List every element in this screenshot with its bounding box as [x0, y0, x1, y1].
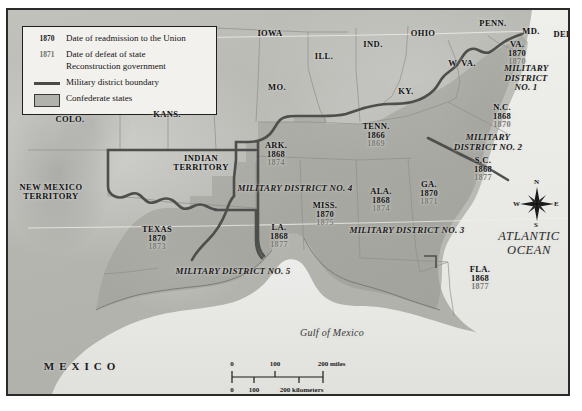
- confederate-state-label: GA.18701871: [420, 180, 438, 207]
- scale-miles-tick-0: 0: [230, 360, 234, 368]
- confederate-state-label: TEXAS18701873: [142, 225, 172, 252]
- union-state-label: ILL.: [315, 52, 333, 61]
- confederate-state-label: TENN.18661869: [362, 122, 389, 149]
- union-state-label: DEL.: [553, 30, 570, 39]
- reconstruction-defeat-year: 1874: [370, 206, 391, 215]
- union-state-label: COLO.: [55, 115, 84, 124]
- legend-year-defeat: 1871: [40, 50, 55, 59]
- union-state-label: PENN.: [479, 19, 506, 28]
- union-state-label: MO.: [268, 83, 286, 92]
- compass-north-label: N: [534, 178, 539, 186]
- map-frame: 1870 Date of readmission to the Union 18…: [6, 8, 570, 396]
- confederate-state-label: ALA.18681874: [370, 187, 391, 214]
- reconstruction-defeat-year: 1871: [420, 199, 438, 208]
- scale-bar-graphic: [230, 369, 362, 387]
- legend-key-defeat: 1871: [30, 49, 64, 59]
- reconstruction-defeat-year: 1869: [362, 141, 389, 150]
- reconstruction-defeat-year: 1875: [313, 220, 337, 229]
- reconstruction-defeat-year: 1877: [474, 175, 492, 184]
- legend-label-district-boundary: Military district boundary: [64, 77, 159, 88]
- union-state-label: IND.: [363, 40, 382, 49]
- scale-miles-tick-100: 100: [270, 360, 281, 368]
- union-state-label: KANS.: [153, 110, 181, 119]
- water-body-label: Gulf of Mexico: [300, 328, 364, 339]
- reconstruction-map-figure: 1870 Date of readmission to the Union 18…: [0, 0, 582, 411]
- confederate-state-label: N.C.18681870: [493, 103, 511, 130]
- legend-label-readmission: Date of readmission to the Union: [64, 33, 186, 44]
- map-legend: 1870 Date of readmission to the Union 18…: [22, 26, 217, 115]
- compass-west-label: W: [513, 200, 520, 208]
- confederate-state-label: ARK.18681874: [265, 141, 287, 168]
- reconstruction-defeat-year: 1873: [142, 244, 172, 253]
- legend-year-readmission: 1870: [40, 34, 55, 43]
- union-state-label: KY.: [398, 87, 413, 96]
- military-district-label: MILITARY DISTRICT NO. 1: [504, 64, 548, 93]
- reconstruction-defeat-year: 1874: [265, 160, 287, 169]
- legend-row-confederate: Confederate states: [30, 93, 209, 107]
- scale-miles-tick-200: 200: [318, 360, 329, 368]
- map-scale-bar: 0 100 200 miles 0 100 200 kilometers: [230, 360, 362, 394]
- compass-south-label: S: [534, 221, 538, 229]
- confederate-state-label: LA.18681877: [270, 223, 288, 250]
- reconstruction-defeat-year: 1877: [270, 242, 288, 251]
- scale-km-tick-200: 200: [280, 386, 291, 394]
- scale-miles-unit: miles: [330, 360, 346, 368]
- union-state-label: IOWA: [257, 29, 282, 38]
- military-district-label: MILITARY DISTRICT NO. 2: [448, 133, 528, 152]
- legend-key-readmission: 1870: [30, 33, 64, 43]
- legend-label-defeat: Date of defeat of state Reconstruction g…: [64, 49, 166, 72]
- legend-key-district-boundary: [30, 77, 64, 85]
- union-state-label: W. VA.: [448, 59, 476, 68]
- district-boundary-swatch-icon: [34, 82, 60, 85]
- confederate-states-swatch-icon: [34, 94, 60, 107]
- scale-km-tick-100: 100: [249, 386, 260, 394]
- compass-rose: N S W E: [513, 178, 561, 228]
- confederate-state-label: FLA.18681877: [470, 265, 490, 292]
- union-state-label: OHIO: [411, 29, 436, 38]
- compass-east-label: E: [554, 200, 559, 208]
- confederate-state-label: S.C.18681877: [474, 156, 492, 183]
- country-label: MEXICO: [44, 361, 120, 373]
- union-state-label: MD.: [522, 27, 540, 36]
- military-district-label: MILITARY DISTRICT NO. 4: [237, 184, 352, 194]
- scale-km-unit: kilometers: [292, 386, 324, 394]
- legend-label-confederate: Confederate states: [64, 93, 132, 104]
- territory-label: INDIAN TERRITORY: [173, 154, 229, 172]
- military-district-label: MILITARY DISTRICT NO. 5: [175, 267, 290, 277]
- confederate-state-label: MISS.18701875: [313, 201, 337, 228]
- legend-row-defeat: 1871 Date of defeat of state Reconstruct…: [30, 49, 209, 72]
- military-district-label: MILITARY DISTRICT NO. 3: [349, 226, 464, 236]
- legend-key-confederate: [30, 93, 64, 107]
- legend-row-readmission: 1870 Date of readmission to the Union: [30, 33, 209, 44]
- legend-row-district-boundary: Military district boundary: [30, 77, 209, 88]
- reconstruction-defeat-year: 1877: [470, 284, 490, 293]
- scale-km-tick-0: 0: [230, 386, 234, 394]
- water-body-label: ATLANTIC OCEAN: [498, 229, 559, 258]
- territory-label: NEW MEXICO TERRITORY: [19, 183, 82, 201]
- reconstruction-defeat-year: 1870: [493, 122, 511, 131]
